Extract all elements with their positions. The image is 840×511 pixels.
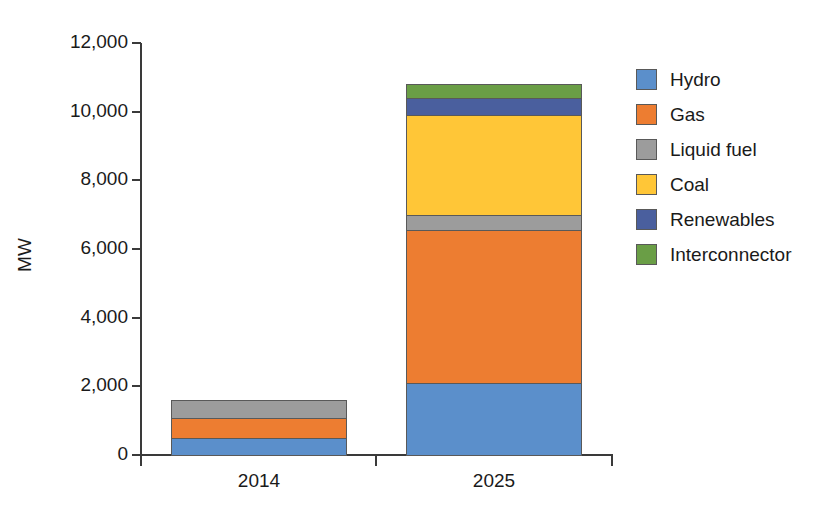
legend-swatch-icon xyxy=(636,69,657,90)
y-axis-tick xyxy=(132,42,141,44)
legend-swatch-icon xyxy=(636,139,657,160)
chart-legend: HydroGasLiquid fuelCoalRenewablesInterco… xyxy=(636,62,791,272)
x-axis-tick xyxy=(611,455,613,466)
bar-segment-liquid-fuel[interactable] xyxy=(406,215,582,231)
bar-segment-liquid-fuel[interactable] xyxy=(171,400,347,419)
y-axis-tick-label: 4,000 xyxy=(28,306,128,328)
legend-item-label: Coal xyxy=(670,174,709,196)
legend-item-renewables[interactable]: Renewables xyxy=(636,202,791,237)
y-axis-tick-label: 8,000 xyxy=(28,168,128,190)
y-axis-tick-label: 2,000 xyxy=(28,374,128,396)
legend-item-label: Liquid fuel xyxy=(670,139,757,161)
y-axis-tick-label: 12,000 xyxy=(28,31,128,53)
y-axis-tick xyxy=(132,317,141,319)
y-axis-tick xyxy=(132,385,141,387)
y-axis-tick xyxy=(132,179,141,181)
legend-item-label: Gas xyxy=(670,104,705,126)
legend-item-interconnector[interactable]: Interconnector xyxy=(636,237,791,272)
bar-segment-hydro[interactable] xyxy=(171,438,347,456)
bar-segment-interconnector[interactable] xyxy=(406,84,582,99)
stacked-bar-chart: MW 02,0004,0006,0008,00010,00012,000 201… xyxy=(0,0,840,511)
y-axis-tick xyxy=(132,111,141,113)
x-axis-tick xyxy=(140,455,142,466)
legend-item-liquid-fuel[interactable]: Liquid fuel xyxy=(636,132,791,167)
legend-swatch-icon xyxy=(636,244,657,265)
x-axis-tick xyxy=(375,455,377,466)
legend-item-label: Renewables xyxy=(670,209,775,231)
y-axis-tick-label: 6,000 xyxy=(28,237,128,259)
bar-stack[interactable] xyxy=(171,0,347,511)
legend-item-label: Interconnector xyxy=(670,244,791,266)
y-axis-tick xyxy=(132,248,141,250)
bar-segment-renewables[interactable] xyxy=(406,98,582,116)
bar-segment-gas[interactable] xyxy=(171,418,347,439)
legend-item-coal[interactable]: Coal xyxy=(636,167,791,202)
y-axis-tick-label: 0 xyxy=(28,443,128,465)
legend-item-gas[interactable]: Gas xyxy=(636,97,791,132)
legend-swatch-icon xyxy=(636,174,657,195)
legend-swatch-icon xyxy=(636,209,657,230)
bar-stack[interactable] xyxy=(406,0,582,511)
bar-segment-gas[interactable] xyxy=(406,230,582,384)
y-axis-tick-label: 10,000 xyxy=(28,100,128,122)
legend-swatch-icon xyxy=(636,104,657,125)
legend-item-label: Hydro xyxy=(670,69,721,91)
bar-segment-hydro[interactable] xyxy=(406,383,582,456)
legend-item-hydro[interactable]: Hydro xyxy=(636,62,791,97)
bar-segment-coal[interactable] xyxy=(406,115,582,216)
